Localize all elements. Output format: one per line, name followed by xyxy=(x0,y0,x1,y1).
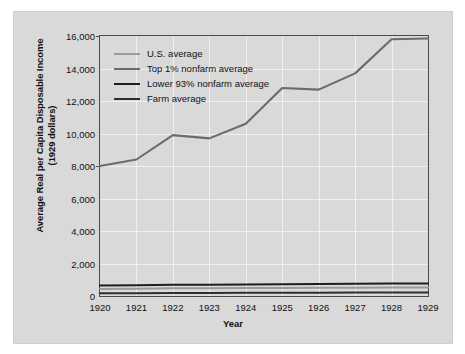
y-axis-tick-label: 6,000 xyxy=(71,193,95,204)
legend-swatch xyxy=(114,83,140,85)
legend-item[interactable]: Farm average xyxy=(114,91,269,106)
x-axis-tick-label: 1924 xyxy=(235,302,256,313)
legend-label: Top 1% nonfarm average xyxy=(147,63,253,74)
plot-area: 02,0004,0006,0008,00010,00012,00014,0001… xyxy=(99,35,429,297)
y-axis-tick-label: 8,000 xyxy=(71,161,95,172)
y-axis-tick-label: 12,000 xyxy=(66,96,95,107)
x-axis-title: Year xyxy=(14,318,452,329)
x-axis-tick-label: 1920 xyxy=(89,302,110,313)
series-line xyxy=(100,287,428,289)
chart-figure: Average Real per Capita Disposable Incom… xyxy=(14,12,452,343)
legend-item[interactable]: U.S. average xyxy=(114,46,269,61)
x-axis-tick-label: 1921 xyxy=(126,302,147,313)
y-axis-tick-label: 10,000 xyxy=(66,128,95,139)
series-line xyxy=(100,293,428,294)
y-axis-tick-label: 16,000 xyxy=(66,31,95,42)
y-axis-title-line2: (1929 dollars) xyxy=(45,21,57,251)
x-axis-tick-label: 1927 xyxy=(345,302,366,313)
chart-legend: U.S. averageTop 1% nonfarm averageLower … xyxy=(114,46,269,106)
y-axis-title-line1: Average Real per Capita Disposable Incom… xyxy=(34,38,45,232)
y-axis-tick-label: 0 xyxy=(90,291,95,302)
legend-label: Farm average xyxy=(147,93,206,104)
x-axis-tick-label: 1925 xyxy=(272,302,293,313)
legend-item[interactable]: Top 1% nonfarm average xyxy=(114,61,269,76)
x-axis-tick-label: 1929 xyxy=(417,302,438,313)
legend-swatch xyxy=(114,98,140,100)
legend-label: Lower 93% nonfarm average xyxy=(147,78,269,89)
legend-item[interactable]: Lower 93% nonfarm average xyxy=(114,76,269,91)
legend-swatch xyxy=(114,53,140,55)
legend-label: U.S. average xyxy=(147,48,202,59)
x-axis-tick-label: 1923 xyxy=(199,302,220,313)
x-axis-tick-label: 1926 xyxy=(308,302,329,313)
x-axis-tick-label: 1922 xyxy=(162,302,183,313)
y-axis-tick-label: 2,000 xyxy=(71,258,95,269)
y-axis-tick-label: 14,000 xyxy=(66,63,95,74)
legend-swatch xyxy=(114,68,140,70)
y-axis-title: Average Real per Capita Disposable Incom… xyxy=(34,21,57,251)
series-line xyxy=(100,283,428,285)
x-axis-tick-label: 1928 xyxy=(381,302,402,313)
y-axis-tick-label: 4,000 xyxy=(71,226,95,237)
